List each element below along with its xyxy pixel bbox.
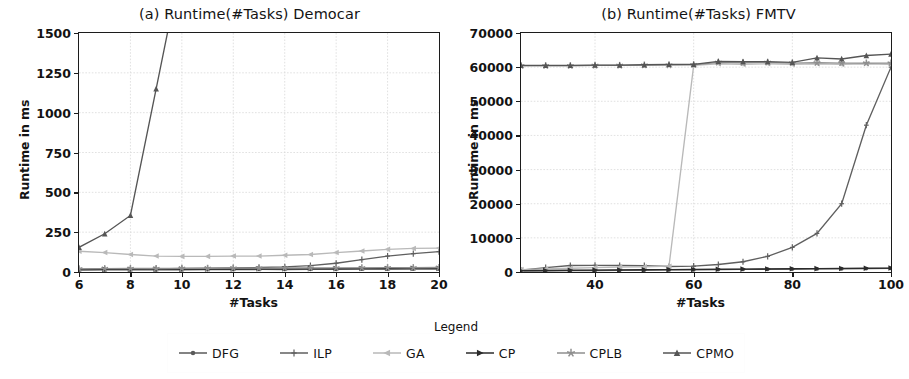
y-tick-mark [516, 170, 520, 171]
y-tick-mark [516, 272, 520, 273]
panel-a-title: (a) Runtime(#Tasks) Democar [0, 6, 455, 22]
y-tick-mark [74, 272, 78, 273]
y-tick-mark [74, 153, 78, 154]
x-tick-label: 6 [75, 277, 84, 292]
y-tick-mark [74, 33, 78, 34]
data-point [127, 252, 133, 258]
x-tick-mark [891, 273, 892, 277]
series-ga [521, 61, 891, 272]
x-tick-mark [694, 273, 695, 277]
series-cpmo [521, 51, 891, 68]
legend-label: DFG [212, 346, 239, 361]
data-point [360, 256, 365, 262]
y-tick-label: 60000 [470, 60, 514, 75]
panel-b-title: (b) Runtime(#Tasks) FMTV [452, 6, 909, 22]
legend-title: Legend [168, 320, 744, 334]
legend-entry-cplb[interactable]: CPLB [556, 346, 623, 361]
y-tick-label: 30000 [470, 162, 514, 177]
chart-panel-democar: (a) Runtime(#Tasks) Democar Runtime in m… [0, 0, 455, 320]
y-tick-label: 40000 [470, 128, 514, 143]
x-tick-mark [182, 273, 183, 277]
x-tick-label: 100 [878, 277, 904, 292]
legend-entry-ilp[interactable]: ILP [279, 346, 332, 361]
y-tick-label: 1500 [36, 26, 71, 41]
panel-b-plot-area [520, 32, 892, 273]
chart-panel-fmtv: (b) Runtime(#Tasks) FMTV Runtime in ms #… [452, 0, 909, 320]
y-tick-mark [516, 67, 520, 68]
x-tick-label: 8 [126, 277, 135, 292]
panel-a-plot-area [78, 32, 440, 273]
y-tick-label: 750 [45, 145, 71, 160]
y-tick-label: 0 [504, 265, 513, 280]
plot-canvas [79, 33, 439, 272]
data-point [790, 244, 795, 250]
x-tick-label: 20 [430, 277, 447, 292]
panel-a-x-axis-label: #Tasks [229, 295, 278, 310]
y-tick-mark [516, 135, 520, 136]
x-tick-mark [130, 273, 131, 277]
plot-canvas [521, 33, 891, 272]
x-tick-mark [388, 273, 389, 277]
data-point [153, 86, 159, 92]
triangle-up-marker [662, 346, 692, 360]
figure-runtime-comparison: (a) Runtime(#Tasks) Democar Runtime in m… [0, 0, 909, 379]
x-tick-label: 60 [685, 277, 702, 292]
y-tick-mark [516, 101, 520, 102]
data-point [102, 231, 108, 237]
y-tick-label: 50000 [470, 94, 514, 109]
y-tick-mark [516, 238, 520, 239]
data-point [204, 254, 210, 260]
y-tick-mark [74, 192, 78, 193]
legend-entry-cpmo[interactable]: CPMO [662, 346, 734, 361]
y-tick-label: 70000 [470, 26, 514, 41]
x-tick-mark [79, 273, 80, 277]
triangle-right-marker [465, 346, 495, 360]
data-point [256, 253, 262, 259]
data-point [307, 252, 313, 258]
triangle-left-marker [372, 346, 402, 360]
data-point [410, 246, 416, 252]
legend-label: CPLB [590, 346, 623, 361]
y-tick-mark [516, 33, 520, 34]
x-tick-label: 14 [276, 277, 293, 292]
x-tick-label: 40 [586, 277, 603, 292]
legend-entry-dfg[interactable]: DFG [178, 346, 239, 361]
x-tick-mark [792, 273, 793, 277]
y-tick-label: 1250 [36, 65, 71, 80]
panel-a-y-axis-label: Runtime in ms [17, 100, 32, 200]
x-tick-mark [439, 273, 440, 277]
legend-label: CP [499, 346, 516, 361]
y-tick-mark [516, 204, 520, 205]
y-tick-label: 0 [62, 265, 71, 280]
data-point [128, 212, 134, 218]
data-point [153, 253, 159, 259]
y-tick-mark [74, 232, 78, 233]
y-tick-label: 250 [45, 225, 71, 240]
x-tick-mark [233, 273, 234, 277]
y-tick-mark [74, 113, 78, 114]
legend-entry-ga[interactable]: GA [372, 346, 425, 361]
series-cpmo [79, 33, 180, 250]
x-tick-label: 16 [327, 277, 344, 292]
x-tick-mark [285, 273, 286, 277]
data-point [741, 259, 746, 265]
data-point [716, 261, 721, 267]
x-tick-label: 18 [379, 277, 396, 292]
y-tick-label: 1000 [36, 105, 71, 120]
y-tick-label: 500 [45, 185, 71, 200]
circle-marker [178, 346, 208, 360]
data-point [359, 248, 365, 254]
x-tick-mark [595, 273, 596, 277]
x-tick-mark [336, 273, 337, 277]
panel-b-x-axis-label: #Tasks [676, 295, 725, 310]
y-tick-label: 20000 [470, 196, 514, 211]
legend-entry-cp[interactable]: CP [465, 346, 516, 361]
y-tick-mark [74, 73, 78, 74]
data-point [411, 251, 416, 257]
data-point [385, 253, 390, 259]
legend-label: CPMO [696, 346, 734, 361]
data-point [102, 250, 108, 256]
x-tick-label: 12 [225, 277, 242, 292]
data-point [765, 253, 770, 259]
panel-b-y-axis-label: Runtime in ms [466, 100, 481, 200]
